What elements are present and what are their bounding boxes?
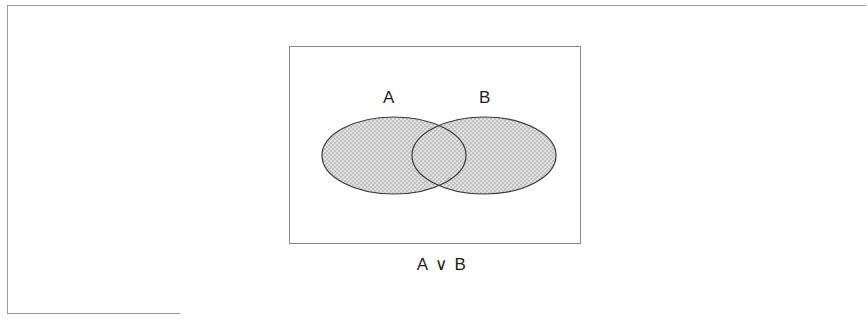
shaded-union-region: [322, 117, 556, 194]
figure-caption: A ∨ B: [342, 256, 542, 273]
frame-fade-right: [850, 6, 868, 320]
figure-root: A B A ∨ B: [0, 0, 868, 320]
set-b-label: B: [465, 89, 505, 106]
frame-fade-bottom: [180, 308, 868, 320]
set-a-label: A: [369, 89, 409, 106]
venn-diagram-stage: A B A ∨ B: [0, 0, 868, 320]
